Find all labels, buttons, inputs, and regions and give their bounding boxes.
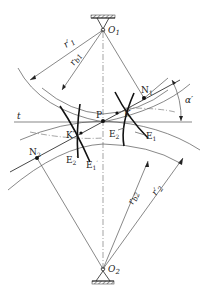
label-r2-prime: r′2 — [149, 182, 165, 198]
label-n1: N1 — [141, 85, 153, 96]
arrowhead — [145, 161, 149, 167]
label-e1-prime: E1′ — [86, 159, 98, 171]
label-rb2: rb2 — [126, 189, 142, 206]
o2-n2-line — [37, 158, 103, 269]
point-k-prime — [79, 131, 82, 134]
label-alpha-prime: α′ — [185, 95, 193, 105]
label-e1: E1 — [146, 131, 156, 142]
label-p: P — [96, 110, 102, 120]
label-o2: O2 — [108, 264, 120, 276]
arrowhead — [30, 75, 36, 80]
pressure-angle-arc — [172, 80, 181, 121]
label-t: t — [17, 111, 21, 121]
arrowhead — [179, 116, 183, 121]
o1-n1-line — [103, 30, 144, 98]
label-e2-prime: E2′ — [66, 154, 78, 166]
label-rb1: rb1 — [67, 51, 84, 69]
label-n2: N2 — [29, 147, 41, 158]
tooth-profile-e2-prime — [77, 104, 80, 158]
gear-meshing-diagram: O1 O2 N1 N2 P t K K′ E1 E2 E2′ E1′ α′ r′… — [0, 0, 206, 294]
label-o1: O1 — [108, 25, 120, 37]
label-e2: E2 — [109, 129, 120, 140]
radius-line-rb2 — [103, 161, 148, 269]
radius-line-r2-prime — [103, 158, 183, 269]
label-k-prime: K′ — [66, 130, 75, 140]
point-n1 — [142, 96, 146, 100]
point-k — [115, 111, 118, 114]
label-k: K — [124, 109, 131, 119]
